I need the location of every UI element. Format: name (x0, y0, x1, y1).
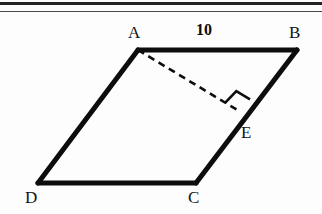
right-angle-marker-at-E (225, 91, 250, 103)
right-angle-square-icon (225, 91, 250, 103)
vertex-label-B: B (289, 24, 300, 41)
vertex-label-E: E (241, 124, 251, 141)
parallelogram-figure (0, 0, 322, 214)
side-length-label-AB: 10 (196, 22, 212, 38)
diagram-canvas: A B C D E 10 (0, 0, 322, 214)
edge-DA (38, 50, 138, 183)
parallelogram-outline (38, 50, 297, 183)
altitude-group (138, 50, 239, 111)
altitude-AE-dashed-line (138, 50, 239, 111)
edge-BC (196, 50, 297, 183)
vertex-label-D: D (25, 189, 37, 206)
vertex-label-A: A (128, 24, 140, 41)
vertex-label-C: C (188, 189, 199, 206)
